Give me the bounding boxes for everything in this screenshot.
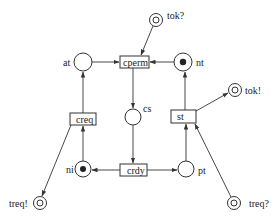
transition-cperm: cperm [120, 56, 149, 68]
interface-inner-ring-icon [231, 200, 237, 206]
place-cs: cs [125, 103, 151, 125]
place-treq-out: treq! [9, 197, 47, 210]
petri-net-diagram: tok? at nt tok! cs ni pt treq! treq? [0, 0, 279, 222]
place-circle-icon [125, 109, 141, 125]
place-ni: ni [66, 161, 91, 177]
transition-crdy: crdy [120, 164, 147, 176]
interface-inner-ring-icon [232, 87, 238, 93]
place-circle-icon [74, 53, 92, 71]
place-at: at [63, 53, 92, 71]
place-label: treq! [9, 198, 28, 209]
transition-creq: creq [70, 113, 96, 125]
place-label: at [63, 57, 70, 68]
arc-treq-in-st [195, 124, 231, 197]
interface-inner-ring-icon [37, 200, 43, 206]
place-label: nt [196, 57, 204, 68]
token-icon [180, 59, 186, 65]
place-label: treq? [249, 198, 270, 209]
place-nt: nt [174, 53, 204, 71]
place-pt: pt [178, 161, 206, 177]
arc-creq-treq-out [42, 125, 71, 196]
place-tok-in: tok? [150, 10, 185, 27]
transition-label: st [177, 111, 184, 122]
arc-tok-in-cperm [141, 26, 153, 55]
transition-label: crdy [127, 165, 145, 176]
transition-st: st [171, 110, 196, 123]
place-label: tok? [167, 10, 185, 21]
place-circle-icon [178, 161, 194, 177]
place-label: cs [143, 103, 151, 114]
arc-st-tok-out [196, 93, 228, 111]
place-treq-in: treq? [228, 197, 270, 210]
token-icon [80, 166, 86, 172]
transition-label: creq [76, 114, 93, 125]
transition-label: cperm [123, 57, 148, 68]
place-label: pt [198, 165, 206, 176]
interface-inner-ring-icon [153, 17, 159, 23]
place-tok-out: tok! [229, 84, 262, 97]
place-label: tok! [245, 85, 261, 96]
place-label: ni [66, 164, 74, 175]
